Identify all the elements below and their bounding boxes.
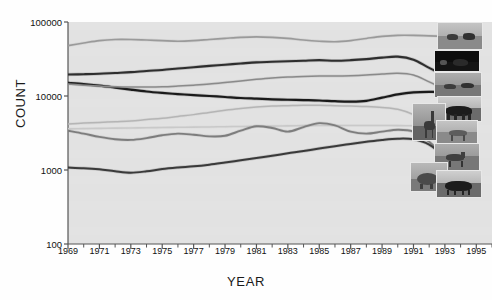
animal-silhouette	[447, 114, 450, 119]
plot-texture-band	[68, 193, 492, 202]
animal-silhouette	[420, 184, 423, 190]
animal-silhouette	[447, 190, 450, 196]
animal-silhouette	[461, 152, 465, 158]
animal-silhouette	[431, 111, 434, 123]
thumb-zebra	[434, 50, 480, 72]
thumb-rhino	[436, 170, 482, 198]
plot-texture-band	[68, 210, 492, 219]
plot-texture-band	[68, 235, 492, 244]
animal-silhouette	[462, 190, 465, 196]
animal-silhouette	[462, 114, 465, 119]
animal-silhouette	[451, 135, 453, 141]
animal-silhouette	[432, 129, 434, 138]
chart-screenshot: COUNT YEAR 100000100001000100 1969197119…	[0, 0, 492, 300]
plot-texture-band	[68, 48, 492, 57]
animal-silhouette	[430, 184, 433, 190]
plot-texture-band	[68, 218, 492, 227]
animal-silhouette	[444, 84, 456, 89]
animal-silhouette	[463, 33, 475, 39]
thumb-eland	[436, 120, 478, 144]
thumb-wildebeest	[434, 72, 482, 98]
animal-silhouette	[425, 129, 427, 138]
animal-silhouette	[461, 83, 474, 89]
plot-texture-band	[68, 201, 492, 210]
animal-silhouette	[454, 190, 457, 196]
line-chart-svg	[0, 0, 492, 300]
thumbnail-ground	[438, 36, 482, 49]
animal-silhouette	[463, 135, 465, 141]
thumb-impala	[437, 22, 483, 50]
animal-silhouette	[468, 190, 471, 196]
plot-texture-band	[68, 22, 492, 31]
animal-silhouette	[454, 114, 457, 119]
animal-silhouette	[461, 161, 463, 168]
plot-texture-band	[68, 227, 492, 236]
animal-silhouette	[468, 114, 471, 119]
animal-silhouette	[447, 34, 458, 40]
animal-silhouette	[453, 59, 469, 66]
plot-area	[0, 0, 492, 300]
animal-silhouette	[449, 161, 451, 168]
